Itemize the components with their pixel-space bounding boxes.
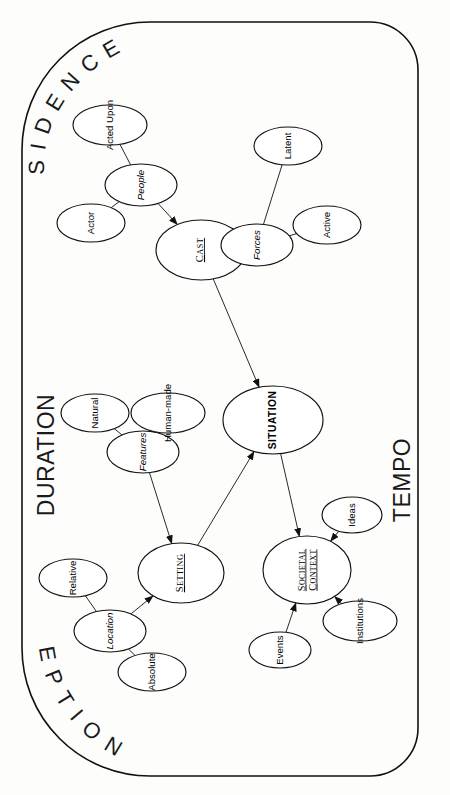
edge-events-to-societal-context <box>286 603 296 632</box>
edge-natural-to-features <box>114 429 122 435</box>
edge-situation-to-societal-context <box>281 454 300 537</box>
edge-absolute-to-location <box>128 649 135 655</box>
edge-acted-upon-to-people <box>120 144 131 165</box>
edge-actor-to-people <box>111 202 119 208</box>
edge-active-to-forces <box>289 234 296 236</box>
node-label-location: Location <box>104 612 115 649</box>
node-active[interactable]: Active <box>293 206 361 244</box>
node-label-institutions: Institutions <box>354 598 365 644</box>
concept-map-svg: S U B S I D E N C E I N C E P T I O N DU… <box>0 0 450 795</box>
node-label-active: Active <box>321 212 332 238</box>
edge-location-to-setting <box>131 596 153 614</box>
node-societal-context[interactable]: SOCIETALCONTEXT <box>263 536 351 604</box>
edge-cast-to-situation <box>213 279 259 387</box>
node-label-forces: Forces <box>251 230 262 260</box>
node-label-ideas: Ideas <box>346 503 357 527</box>
node-label-societal-context: SOCIETAL <box>296 549 307 591</box>
node-shape-societal-context <box>263 536 351 604</box>
node-situation[interactable]: SITUATION <box>223 386 323 454</box>
node-label-features: Features <box>137 433 148 472</box>
edge-relative-to-location <box>85 596 96 612</box>
node-actor[interactable]: Actor <box>57 204 125 242</box>
node-institutions[interactable]: Institutions <box>323 598 397 644</box>
edge-setting-to-situation <box>198 451 254 545</box>
node-label-acted-upon: Acted Upon <box>104 100 115 150</box>
edge-latent-to-forces <box>263 165 282 225</box>
node-label-cast: CAST <box>194 238 205 262</box>
edge-people-to-cast <box>158 203 177 224</box>
node-acted-upon[interactable]: Acted Upon <box>73 100 147 150</box>
node-label-natural: Natural <box>89 398 100 429</box>
node-setting[interactable]: SETTING <box>138 543 224 603</box>
node-label-societal-context: CONTEXT <box>307 549 318 590</box>
node-label-actor: Actor <box>85 211 96 234</box>
node-people[interactable]: People <box>105 164 177 206</box>
node-latent[interactable]: Latent <box>254 127 322 165</box>
node-ideas[interactable]: Ideas <box>322 497 382 533</box>
edge-institutions-to-societal-context <box>335 597 342 604</box>
node-label-events: Events <box>274 635 285 665</box>
edge-features-to-setting <box>149 473 171 544</box>
node-label-relative: Relative <box>67 561 78 596</box>
node-natural[interactable]: Natural <box>61 394 129 432</box>
node-label-situation: SITUATION <box>267 391 278 450</box>
node-location[interactable]: Location <box>74 610 146 652</box>
diagram-canvas: S U B S I D E N C E I N C E P T I O N DU… <box>0 0 450 795</box>
node-relative[interactable]: Relative <box>39 559 107 597</box>
node-label-human-made: Human-made <box>162 384 173 442</box>
edge-ideas-to-societal-context <box>331 531 339 541</box>
node-label-setting: SETTING <box>174 554 185 593</box>
node-absolute[interactable]: Absolute <box>118 653 186 691</box>
node-label-absolute: Absolute <box>146 653 157 690</box>
node-events[interactable]: Events <box>249 632 311 668</box>
nodes-layer: SITUATIONCASTSETTINGSOCIETALCONTEXTPeopl… <box>39 100 397 691</box>
node-label-latent: Latent <box>282 132 293 159</box>
frame-label-left: DURATION <box>33 394 59 516</box>
node-label-people: People <box>135 169 146 200</box>
frame-labels: S U B S I D E N C E I N C E P T I O N DU… <box>0 0 415 761</box>
frame-label-right: TEMPO <box>389 438 415 522</box>
node-forces[interactable]: Forces <box>221 224 293 266</box>
